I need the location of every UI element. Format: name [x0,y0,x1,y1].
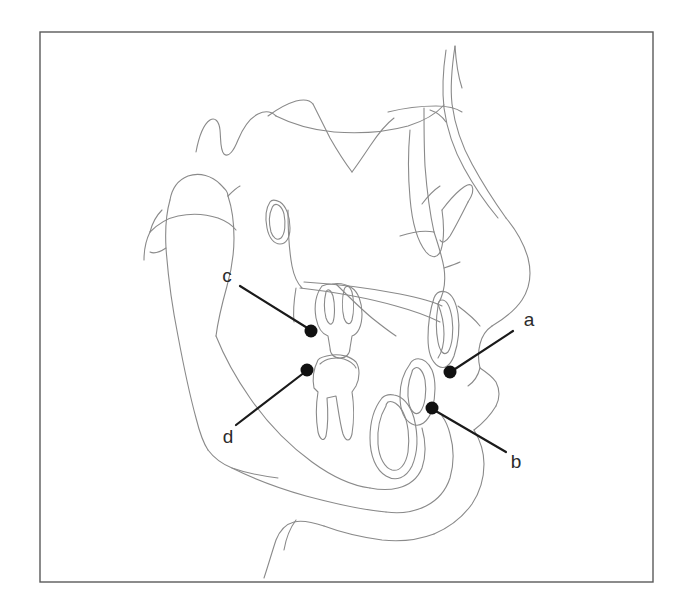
trace-sphenoid-bar [313,104,352,172]
trace-anterior-cranial [388,106,462,112]
trace-ear-canal-mark [150,248,166,253]
trace-lip-curve [474,406,496,430]
leader-line-d [236,372,305,425]
landmark-c[interactable]: c [222,265,317,337]
landmark-label-d: d [223,426,234,447]
skull-tracing-lines [144,46,530,578]
trace-soft-tissue-chin [434,430,484,534]
landmark-dot-b[interactable] [426,402,439,415]
trace-lower-molar-cusp [320,358,356,368]
leader-line-b [434,410,506,452]
landmark-dot-a[interactable] [444,366,457,379]
trace-porion-line [352,118,394,172]
trace-symphysis-tooth [370,395,417,479]
trace-lower-incisor-inner [408,368,426,414]
landmark-label-a: a [524,309,535,330]
landmark-dot-c[interactable] [305,325,318,338]
trace-lower-incisor-outline [400,359,435,425]
trace-mandible-ramus-post [166,200,208,450]
landmark-label-b: b [511,451,522,472]
trace-posterior-skull [150,210,162,232]
trace-maxilla-back [294,288,296,322]
trace-coronoid-slope [228,186,240,196]
trace-post-face-line [144,232,150,260]
trace-ans-tip [444,262,460,268]
landmark-annotations: abcd [222,265,534,472]
tracing-canvas: abcd [0,0,687,603]
trace-cranial-base-upper [196,112,276,155]
trace-neck-line [264,521,324,578]
trace-chin-bone [386,416,453,513]
trace-sella-inner [270,204,285,239]
trace-upper-molar-outline [315,284,362,358]
leader-line-c [240,286,309,329]
trace-lower-molar-outline [313,355,359,440]
trace-symphysis-inner [378,401,409,470]
cephalometric-figure: abcd [0,0,687,603]
trace-soft-tissue-lower [324,526,434,541]
trace-upper-lip-soft [480,368,499,406]
trace-columella [468,368,480,386]
landmark-dot-d[interactable] [301,364,314,377]
trace-hyoid-line [284,520,296,550]
trace-orbit-front-edge [424,108,434,232]
trace-orbit-rim [409,130,444,257]
trace-glabella-brow [455,46,462,88]
trace-condyle-head [170,174,228,200]
trace-frontal-sinus [430,110,446,122]
trace-sigmoid-notch [150,214,236,232]
figure-frame [40,32,653,582]
trace-upper-molar-root1 [325,290,335,324]
trace-zygo-arch [442,185,473,210]
trace-sella-sweep [276,105,444,133]
trace-nose-under-edge [458,306,480,326]
landmark-label-c: c [222,265,232,286]
trace-cranial-base-ridge [268,100,313,116]
trace-brow-to-nasion [422,186,440,204]
trace-mandible-body-upper [216,336,370,488]
landmark-b[interactable]: b [426,402,522,473]
